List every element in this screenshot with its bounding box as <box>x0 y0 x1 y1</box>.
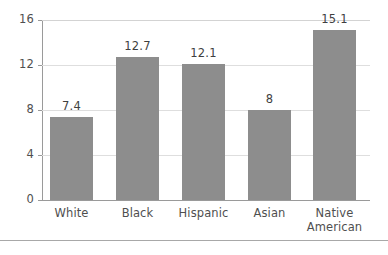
gridline-0-baseline <box>42 200 370 201</box>
bar-black <box>116 57 159 200</box>
x-category-label-native-american-line-2: American <box>289 220 381 234</box>
bar-asian <box>248 110 291 200</box>
y-tick-label-0: 0 <box>8 194 34 206</box>
plot-area: 7.4 12.7 12.1 8 15.1 <box>42 20 370 200</box>
bar-value-asian: 8 <box>240 93 300 105</box>
bar-value-black: 12.7 <box>108 40 168 52</box>
bar-chart-figure: 7.4 12.7 12.1 8 15.1 16 12 8 4 0 White B… <box>0 0 388 255</box>
y-tick-0 <box>38 200 42 201</box>
y-tick-12 <box>38 65 42 66</box>
y-tick-label-4: 4 <box>8 149 34 161</box>
y-tick-label-8: 8 <box>8 104 34 116</box>
y-tick-4 <box>38 155 42 156</box>
footer-divider <box>0 240 388 241</box>
y-tick-label-16: 16 <box>8 14 34 26</box>
y-tick-16 <box>38 20 42 21</box>
bar-white <box>50 117 93 200</box>
y-tick-label-12: 12 <box>8 59 34 71</box>
bar-native-american <box>313 30 356 200</box>
bar-value-native-american: 15.1 <box>305 13 365 25</box>
y-tick-8 <box>38 110 42 111</box>
x-category-label-native-american: Native American <box>289 206 381 234</box>
bar-hispanic <box>182 64 225 200</box>
bar-value-white: 7.4 <box>42 100 102 112</box>
bar-value-hispanic: 12.1 <box>174 47 234 59</box>
x-category-label-native-american-line-1: Native <box>289 206 381 220</box>
